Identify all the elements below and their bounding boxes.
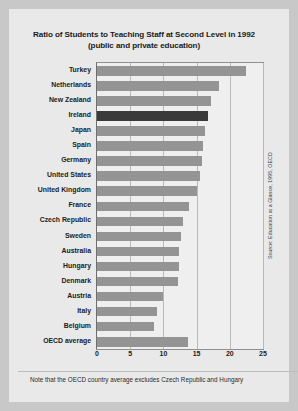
plot-area: TurkeyNetherlandsNew ZealandIrelandJapan…	[96, 62, 264, 350]
chart-title-subtitle: (public and private education)	[21, 40, 267, 51]
bar	[97, 81, 219, 91]
category-label: United Kingdom	[38, 184, 91, 196]
bar	[97, 171, 200, 181]
category-label: Turkey	[69, 64, 91, 76]
bar	[97, 232, 181, 242]
bar-row: Spain	[97, 138, 263, 153]
category-label: Germany	[61, 154, 91, 166]
bar	[97, 126, 205, 136]
bar-row: Ireland	[97, 108, 263, 123]
bar-row: OECD average	[97, 334, 263, 349]
bar	[97, 307, 157, 317]
chart-title: Ratio of Students to Teaching Staff at S…	[21, 29, 267, 51]
category-label: Ireland	[68, 109, 91, 121]
x-tick-label: 0	[95, 350, 99, 357]
bar-row: Turkey	[97, 63, 263, 78]
bar-row: Japan	[97, 123, 263, 138]
bar	[97, 337, 188, 347]
x-tick-label: 20	[226, 350, 234, 357]
category-label: OECD average	[43, 335, 91, 347]
x-axis: 0510152025	[96, 350, 264, 364]
bar	[97, 247, 179, 257]
bar-row: Netherlands	[97, 78, 263, 93]
bar-row: France	[97, 198, 263, 213]
x-tick-label: 10	[159, 350, 167, 357]
category-label: United States	[47, 169, 91, 181]
bar	[97, 262, 179, 272]
category-label: Italy	[77, 305, 91, 317]
bar	[97, 156, 202, 166]
bar	[97, 111, 208, 121]
bar	[97, 322, 154, 332]
category-label: Belgium	[64, 320, 91, 332]
bar	[97, 277, 178, 287]
category-label: Austria	[67, 290, 91, 302]
gridline-25	[263, 63, 264, 349]
category-label: Australia	[62, 245, 92, 257]
category-label: Japan	[71, 124, 91, 136]
category-label: Denmark	[62, 275, 92, 287]
bar-rows: TurkeyNetherlandsNew ZealandIrelandJapan…	[97, 63, 263, 349]
category-label: Hungary	[63, 260, 91, 272]
bar-row: Australia	[97, 244, 263, 259]
bar	[97, 292, 163, 302]
category-label: Netherlands	[51, 79, 91, 91]
x-tick-label: 5	[128, 350, 132, 357]
bar	[97, 96, 211, 106]
bar-row: Belgium	[97, 319, 263, 334]
x-tick-label: 15	[193, 350, 201, 357]
bar	[97, 141, 203, 151]
chart-source: Source: Education at a Glance, 1995, OEC…	[267, 139, 273, 259]
bar-row: Italy	[97, 304, 263, 319]
bar-row: Czech Republic	[97, 213, 263, 228]
bar-row: United States	[97, 168, 263, 183]
chart-figure: Ratio of Students to Teaching Staff at S…	[9, 9, 289, 402]
bar-row: Sweden	[97, 229, 263, 244]
category-label: Czech Republic	[40, 214, 91, 226]
category-label: New Zealand	[49, 94, 91, 106]
bar-row: Denmark	[97, 274, 263, 289]
bar	[97, 66, 246, 76]
footnote-divider	[18, 371, 298, 372]
bar	[97, 202, 189, 212]
bar	[97, 186, 197, 196]
bar	[97, 217, 183, 227]
chart-footnote: Note that the OECD country average exclu…	[30, 375, 255, 384]
category-label: France	[68, 199, 91, 211]
bar-row: New Zealand	[97, 93, 263, 108]
x-tick-label: 25	[259, 350, 267, 357]
chart-title-primary: Ratio of Students to Teaching Staff at S…	[33, 30, 255, 39]
bar-row: Austria	[97, 289, 263, 304]
bar-row: United Kingdom	[97, 183, 263, 198]
bar-row: Germany	[97, 153, 263, 168]
category-label: Sweden	[65, 230, 91, 242]
bar-row: Hungary	[97, 259, 263, 274]
category-label: Spain	[72, 139, 91, 151]
